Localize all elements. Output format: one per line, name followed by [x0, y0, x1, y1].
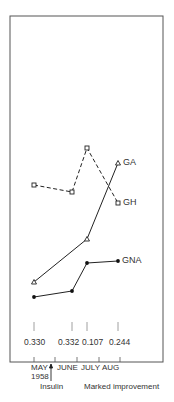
- value-label-july: 0.107: [82, 338, 103, 347]
- series-label-ga: GA: [123, 158, 136, 167]
- value-label-june: 0.332: [58, 338, 79, 347]
- annotation-marked-improvement: Marked improvement: [84, 383, 159, 391]
- x-label-aug: AUG: [102, 364, 119, 372]
- x-label-june: JUNE: [57, 364, 78, 372]
- annotation-insulin: Insulin: [40, 383, 63, 391]
- x-label-july: JULY: [81, 364, 100, 372]
- x-axis-ticks: [34, 357, 120, 362]
- value-label-may: 0.330: [24, 338, 45, 347]
- value-label-aug: 0.244: [109, 338, 130, 347]
- series-gh-markers: [32, 146, 120, 205]
- value-ticks: [34, 322, 118, 331]
- x-label-year: 1958: [31, 373, 49, 381]
- series-gna-markers: [32, 259, 120, 299]
- insulin-arrow-icon: [50, 364, 53, 381]
- series-ga-line: [34, 163, 118, 282]
- series-gna-line: [34, 261, 118, 297]
- plot-frame: [10, 16, 163, 362]
- x-label-may: MAY: [31, 364, 48, 372]
- series-label-gna: GNA: [122, 256, 142, 265]
- series-label-gh: GH: [123, 198, 137, 207]
